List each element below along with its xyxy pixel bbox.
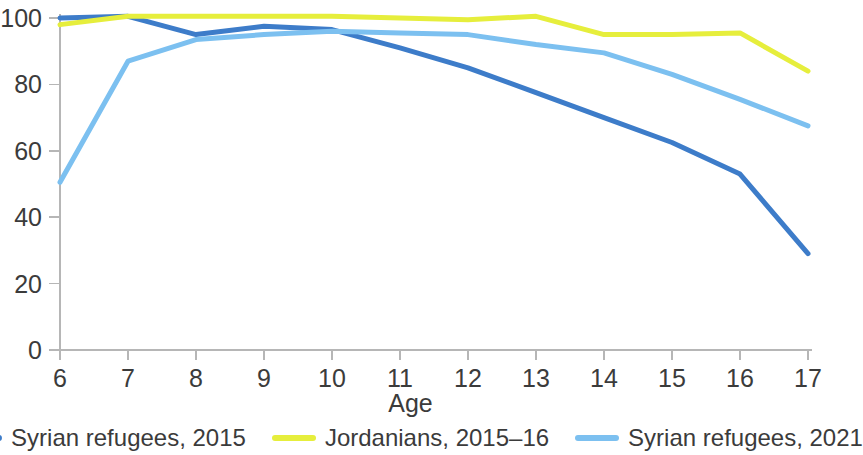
series-line-3 xyxy=(60,31,808,182)
x-tick-label: 8 xyxy=(166,366,226,391)
x-tick-label: 12 xyxy=(438,366,498,391)
x-tick-label: 16 xyxy=(710,366,770,391)
x-tick-label: 10 xyxy=(302,366,362,391)
x-tick-label: 14 xyxy=(574,366,634,391)
x-tick-label: 6 xyxy=(30,366,90,391)
y-tick-label: 80 xyxy=(0,72,42,97)
series-line-2 xyxy=(60,16,808,71)
legend-swatch-icon xyxy=(0,435,2,441)
x-tick-label: 9 xyxy=(234,366,294,391)
series-line-1 xyxy=(60,16,808,253)
legend-item[interactable]: Syrian refugees, 2021 xyxy=(575,426,863,450)
series-group xyxy=(60,16,808,253)
x-tick-label: 13 xyxy=(506,366,566,391)
x-tick-label: 17 xyxy=(778,366,838,391)
legend-item[interactable]: Syrian refugees, 2015 xyxy=(0,426,246,450)
legend-label: Syrian refugees, 2015 xyxy=(11,426,246,450)
legend-label: Jordanians, 2015–16 xyxy=(325,426,549,450)
y-tick-label: 60 xyxy=(0,139,42,164)
legend-item[interactable]: Jordanians, 2015–16 xyxy=(272,426,549,450)
x-tick-label: 11 xyxy=(370,366,430,391)
chart-legend: Syrian refugees, 2015Jordanians, 2015–16… xyxy=(0,426,821,450)
y-tick-label: 40 xyxy=(0,205,42,230)
x-axis-title: Age xyxy=(0,391,821,416)
legend-swatch-icon xyxy=(575,435,619,441)
plot-area xyxy=(0,0,821,400)
legend-label: Syrian refugees, 2021 xyxy=(628,426,863,450)
x-tick-label: 15 xyxy=(642,366,702,391)
y-tick-label: 0 xyxy=(0,338,42,363)
legend-swatch-icon xyxy=(272,435,316,441)
y-tick-label: 100 xyxy=(0,6,42,31)
y-tick-label: 20 xyxy=(0,272,42,297)
axes-group xyxy=(49,14,812,360)
x-tick-marks xyxy=(60,350,808,360)
x-tick-label: 7 xyxy=(98,366,158,391)
